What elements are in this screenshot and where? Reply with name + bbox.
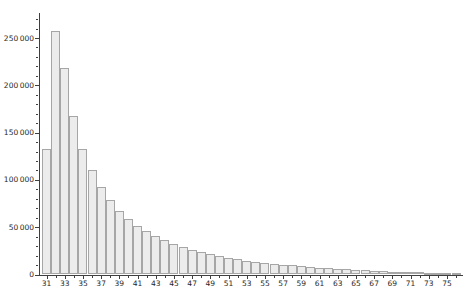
- x-axis-tick-label: 53: [239, 280, 255, 288]
- histogram-bar-33: [60, 68, 69, 274]
- x-minor-tick: [165, 276, 166, 278]
- x-minor-tick: [274, 276, 275, 278]
- x-minor-tick: [365, 276, 366, 278]
- histogram-bar-73: [424, 273, 433, 275]
- y-minor-tick: [36, 170, 38, 171]
- y-axis-line: [39, 13, 40, 275]
- x-axis-tick-label: 39: [111, 280, 127, 288]
- histogram-bar-42: [142, 231, 151, 274]
- x-axis-tick-label: 75: [439, 280, 455, 288]
- histogram-bar-31: [42, 149, 51, 275]
- x-minor-tick: [128, 276, 129, 278]
- x-minor-tick: [310, 276, 311, 278]
- histogram-bar-72: [415, 272, 424, 274]
- histogram-bar-57: [279, 265, 288, 275]
- x-minor-tick: [347, 276, 348, 278]
- histogram-bar-71: [406, 272, 415, 274]
- y-minor-tick: [36, 256, 38, 257]
- y-minor-tick: [36, 152, 38, 153]
- histogram-bar-55: [260, 263, 269, 275]
- histogram-bar-56: [270, 264, 279, 275]
- y-major-tick: [35, 227, 39, 228]
- histogram-bar-40: [124, 219, 133, 274]
- x-minor-tick: [110, 276, 111, 278]
- histogram-bar-58: [288, 265, 297, 274]
- y-minor-tick: [36, 161, 38, 162]
- y-major-tick: [35, 85, 39, 86]
- y-axis-tick-label: 100 000: [0, 176, 34, 183]
- x-axis-tick-label: 67: [366, 280, 382, 288]
- histogram-bar-35: [78, 149, 87, 275]
- histogram-bar-32: [51, 31, 60, 274]
- x-minor-tick: [147, 276, 148, 278]
- y-minor-tick: [36, 237, 38, 238]
- y-minor-tick: [36, 189, 38, 190]
- y-minor-tick: [36, 104, 38, 105]
- x-minor-tick: [401, 276, 402, 278]
- x-axis-tick-label: 69: [384, 280, 400, 288]
- histogram-bar-68: [379, 271, 388, 274]
- x-minor-tick: [383, 276, 384, 278]
- histogram-bar-34: [69, 116, 78, 275]
- y-axis-tick-label: 0: [0, 271, 34, 278]
- histogram-bar-66: [361, 270, 370, 274]
- histogram-bar-39: [115, 211, 124, 275]
- histogram-bar-63: [333, 269, 342, 275]
- histogram-bar-47: [188, 250, 197, 275]
- x-axis-tick-label: 33: [57, 280, 73, 288]
- histogram-bar-69: [388, 272, 397, 275]
- y-minor-tick: [36, 265, 38, 266]
- histogram-bar-43: [151, 236, 160, 274]
- y-minor-tick: [36, 95, 38, 96]
- histogram-bar-48: [197, 252, 206, 274]
- x-minor-tick: [74, 276, 75, 278]
- x-minor-tick: [92, 276, 93, 278]
- histogram-bar-44: [160, 240, 169, 274]
- y-minor-tick: [36, 114, 38, 115]
- y-axis-tick-label: 250 000: [0, 35, 34, 42]
- histogram-bar-51: [224, 258, 233, 275]
- histogram-bar-60: [306, 267, 315, 275]
- x-axis-line: [39, 275, 464, 276]
- y-major-tick: [35, 38, 39, 39]
- histogram-bar-64: [342, 269, 351, 274]
- x-minor-tick: [420, 276, 421, 278]
- x-axis-tick-label: 35: [75, 280, 91, 288]
- y-major-tick: [35, 275, 39, 276]
- y-axis-tick-label: 50 000: [0, 224, 34, 231]
- x-axis-tick-label: 59: [293, 280, 309, 288]
- histogram-bar-65: [351, 270, 360, 275]
- x-minor-tick: [456, 276, 457, 278]
- x-axis-tick-label: 71: [403, 280, 419, 288]
- y-minor-tick: [36, 66, 38, 67]
- histogram-bar-41: [133, 226, 142, 275]
- histogram-bar-70: [397, 272, 406, 275]
- histogram-bar-53: [242, 261, 251, 275]
- histogram-bar-50: [215, 256, 224, 274]
- y-minor-tick: [36, 29, 38, 30]
- x-minor-tick: [219, 276, 220, 278]
- y-minor-tick: [36, 57, 38, 58]
- histogram-bar-62: [324, 268, 333, 274]
- x-axis-tick-label: 37: [93, 280, 109, 288]
- x-axis-tick-label: 57: [275, 280, 291, 288]
- x-axis-tick-label: 65: [348, 280, 364, 288]
- y-axis-tick-label: 200 000: [0, 82, 34, 89]
- histogram-bar-36: [88, 170, 97, 274]
- x-minor-tick: [292, 276, 293, 278]
- histogram-bar-54: [251, 262, 260, 275]
- y-minor-tick: [36, 19, 38, 20]
- y-minor-tick: [36, 76, 38, 77]
- histogram-chart: 050 000100 000150 000200 000250 000 3133…: [0, 0, 471, 306]
- x-axis-tick-label: 63: [330, 280, 346, 288]
- x-axis-tick-label: 41: [130, 280, 146, 288]
- histogram-bar-52: [233, 259, 242, 274]
- y-minor-tick: [36, 142, 38, 143]
- x-minor-tick: [56, 276, 57, 278]
- y-minor-tick: [36, 123, 38, 124]
- x-axis-tick-label: 73: [421, 280, 437, 288]
- histogram-bar-67: [370, 271, 379, 275]
- x-axis-tick-label: 49: [202, 280, 218, 288]
- x-minor-tick: [201, 276, 202, 278]
- histogram-bar-49: [206, 254, 215, 274]
